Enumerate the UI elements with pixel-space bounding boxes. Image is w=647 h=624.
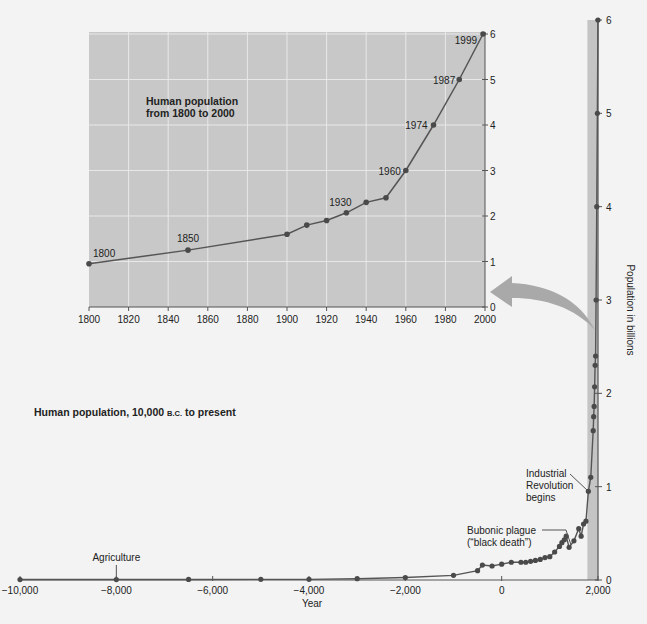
x-tick-label: −4,000 <box>294 585 325 596</box>
curved-arrow-icon <box>490 276 595 330</box>
population-figure: −10,000−8,000−6,000−4,000−2,00002,000012… <box>0 0 647 624</box>
inset-point-label: 1850 <box>177 233 200 244</box>
inset-x-tick-label: 1880 <box>236 314 259 325</box>
data-point-marker <box>480 562 485 567</box>
data-point-marker <box>451 573 456 578</box>
y-tick-label: 6 <box>606 15 612 26</box>
industrial-label-line1: Industrial <box>526 468 567 479</box>
y-axis-label: Population in billions <box>625 264 636 355</box>
inset-point-label: 1960 <box>379 166 402 177</box>
inset-y-tick-label: 4 <box>490 120 496 131</box>
x-tick-label: 2,000 <box>585 585 610 596</box>
inset-point-label: 1930 <box>329 197 352 208</box>
inset-y-tick-label: 1 <box>490 257 496 268</box>
data-point-marker <box>528 559 533 564</box>
y-tick-label: 2 <box>606 388 612 399</box>
inset-data-point <box>304 222 310 228</box>
x-tick-label: −8,000 <box>101 585 132 596</box>
data-point-marker <box>258 577 263 582</box>
x-tick-label: −2,000 <box>390 585 421 596</box>
inset-data-point <box>480 31 486 37</box>
data-point-marker <box>576 526 581 531</box>
data-point-marker <box>533 558 538 563</box>
inset-data-point <box>403 168 409 174</box>
inset-data-point <box>344 210 350 216</box>
data-point-marker <box>591 414 596 419</box>
data-point-marker <box>489 563 494 568</box>
inset-title-line2: from 1800 to 2000 <box>146 107 235 119</box>
data-point-marker <box>509 560 514 565</box>
data-point-marker <box>518 560 523 565</box>
inset-y-tick-label: 3 <box>490 166 496 177</box>
inset-chart: 1800182018401860188019001920194019601980… <box>78 29 497 325</box>
inset-point-label: 1999 <box>455 35 478 46</box>
data-point-marker <box>595 111 600 116</box>
population-chart-svg: −10,000−8,000−6,000−4,000−2,00002,000012… <box>0 0 647 624</box>
inset-data-point <box>86 261 92 267</box>
y-tick-label: 3 <box>606 295 612 306</box>
inset-point-label: 1800 <box>93 248 116 259</box>
data-point-marker <box>538 557 543 562</box>
inset-title-line1: Human population <box>146 95 238 107</box>
inset-y-tick-label: 2 <box>490 211 496 222</box>
plague-label-line1: Bubonic plague <box>467 525 536 536</box>
data-point-marker <box>592 384 597 389</box>
inset-x-tick-label: 1960 <box>395 314 418 325</box>
y-tick-label: 4 <box>606 202 612 213</box>
y-tick-label: 5 <box>606 108 612 119</box>
x-tick-label: −10,000 <box>2 585 39 596</box>
inset-data-point <box>324 218 330 224</box>
data-point-marker <box>588 475 593 480</box>
industrial-label-line3: begins <box>526 492 555 503</box>
y-tick-label: 1 <box>606 482 612 493</box>
data-point-marker <box>592 404 597 409</box>
data-point-marker <box>17 577 22 582</box>
inset-x-tick-label: 1900 <box>276 314 299 325</box>
data-point-marker <box>593 297 598 302</box>
data-point-marker <box>547 554 552 559</box>
y-tick-label: 0 <box>606 575 612 586</box>
data-point-marker <box>552 549 557 554</box>
inset-x-tick-label: 1820 <box>117 314 140 325</box>
data-point-marker <box>595 17 600 22</box>
inset-x-tick-label: 1980 <box>434 314 457 325</box>
inset-y-tick-label: 0 <box>490 302 496 313</box>
inset-point-label: 1987 <box>433 75 456 86</box>
inset-data-point <box>383 195 389 201</box>
inset-x-tick-label: 1940 <box>355 314 378 325</box>
x-axis-label: Year <box>302 598 323 609</box>
x-tick-label: −6,000 <box>197 585 228 596</box>
inset-data-point <box>456 77 462 83</box>
data-point-marker <box>186 577 191 582</box>
inset-x-tick-label: 1860 <box>197 314 220 325</box>
data-point-marker <box>403 575 408 580</box>
data-point-marker <box>593 353 598 358</box>
data-point-marker <box>567 545 572 550</box>
data-point-marker <box>306 577 311 582</box>
data-point-marker <box>579 534 584 539</box>
data-point-marker <box>571 538 576 543</box>
main-chart-title: Human population, 10,000 B.C. to present <box>34 406 236 418</box>
agriculture-label: Agriculture <box>92 552 140 563</box>
x-tick-label: 0 <box>499 585 505 596</box>
data-point-marker <box>542 555 547 560</box>
inset-data-point <box>284 231 290 237</box>
plague-label-line2: (“black death”) <box>467 537 531 548</box>
inset-y-tick-label: 6 <box>490 29 496 40</box>
inset-x-tick-label: 1920 <box>315 314 338 325</box>
inset-x-tick-label: 2000 <box>474 314 497 325</box>
data-point-marker <box>593 363 598 368</box>
inset-data-point <box>431 122 437 128</box>
inset-x-tick-label: 1840 <box>157 314 180 325</box>
data-point-marker <box>583 519 588 524</box>
data-point-marker <box>475 568 480 573</box>
industrial-label-line2: Revolution <box>526 480 573 491</box>
inset-data-point <box>185 247 191 253</box>
inset-point-label: 1974 <box>405 120 428 131</box>
inset-x-tick-label: 1800 <box>78 314 101 325</box>
data-point-marker <box>591 428 596 433</box>
data-point-marker <box>523 560 528 565</box>
data-point-marker <box>355 576 360 581</box>
inset-y-tick-label: 5 <box>490 75 496 86</box>
data-point-marker <box>594 204 599 209</box>
